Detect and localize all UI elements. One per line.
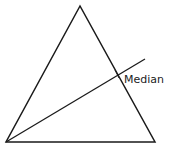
median-diagram: Median: [0, 0, 174, 151]
median-line: [6, 59, 145, 142]
median-label: Median: [124, 73, 164, 86]
